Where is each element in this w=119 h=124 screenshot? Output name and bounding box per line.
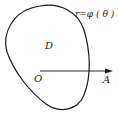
curve-equation-label: r=φ ( θ ) [75,10,114,19]
arrowhead-icon [105,69,113,74]
region-label: D [45,41,53,51]
origin-label: O [34,74,42,84]
ray-end-label: A [103,75,110,85]
closed-curve [6,5,90,109]
